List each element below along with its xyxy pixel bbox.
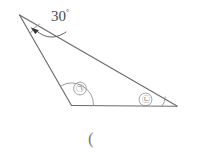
edge-base-bottom — [72, 106, 178, 107]
apex-angle-label: 30° — [51, 9, 69, 24]
geometry-figure: ㉠ ㉡ 30° ( — [0, 0, 200, 156]
edge-apex-to-bottom-right — [20, 15, 178, 106]
figure-canvas: ㉠ ㉡ — [0, 0, 200, 156]
angle-b-letter: ㉡ — [142, 95, 150, 104]
edge-apex-to-bottom-left — [20, 15, 72, 106]
angle-a-letter: ㉠ — [76, 84, 84, 93]
apex-angle-value: 30 — [51, 8, 66, 24]
angle-b-label-group: ㉡ — [139, 93, 152, 106]
figure-caption: ( — [88, 130, 94, 147]
angle-a-label-group: ㉠ — [74, 82, 87, 95]
degree-symbol: ° — [66, 8, 69, 17]
triangle-outline — [20, 15, 178, 106]
